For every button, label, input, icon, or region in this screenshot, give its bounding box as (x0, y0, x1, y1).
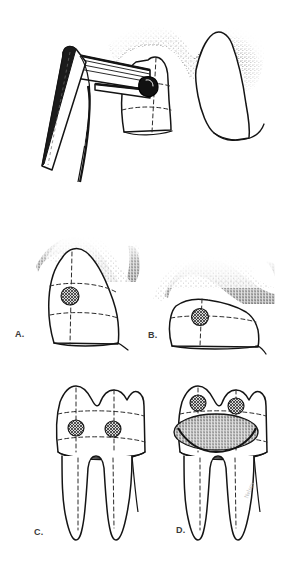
panel-label-c: C. (34, 527, 44, 537)
illustration-canvas (0, 0, 288, 562)
dental-illustration-figure: A. B. C. D. Nelson (0, 0, 288, 562)
panel-label-b: B. (148, 330, 158, 340)
cavity-highlight-d (174, 414, 258, 450)
caries-lesion-c-1 (68, 420, 84, 436)
panel-label-a: A. (15, 329, 25, 339)
caries-lesion-d-1 (190, 395, 206, 411)
caries-lesion-a (61, 287, 79, 305)
caries-lesion-c-2 (105, 421, 121, 437)
panel-label-d: D. (176, 525, 186, 535)
caries-lesion-b (192, 309, 209, 326)
caries-lesion-d-2 (228, 398, 244, 414)
